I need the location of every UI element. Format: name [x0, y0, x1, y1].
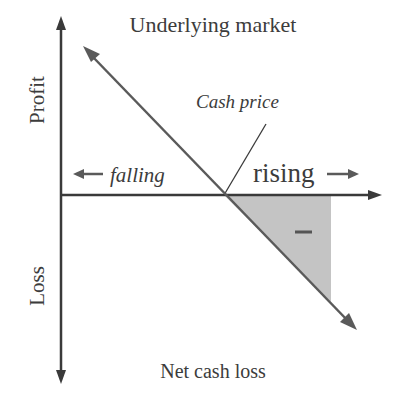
profit-axis-label: Profit — [25, 76, 50, 124]
falling-label: falling — [110, 163, 165, 188]
falling-arrow-icon — [73, 169, 84, 179]
net-cash-loss-caption: Net cash loss — [0, 360, 406, 383]
loss-axis-label: Loss — [25, 266, 50, 306]
x-axis-right-arrow-icon — [368, 190, 382, 200]
payoff-diagram — [0, 0, 406, 412]
rising-arrow-icon — [348, 169, 359, 179]
rising-label: rising — [253, 158, 315, 189]
chart-title: Underlying market — [0, 12, 406, 38]
cash-price-label: Cash price — [196, 91, 279, 113]
loss-line-up-arrow-icon — [83, 46, 100, 62]
